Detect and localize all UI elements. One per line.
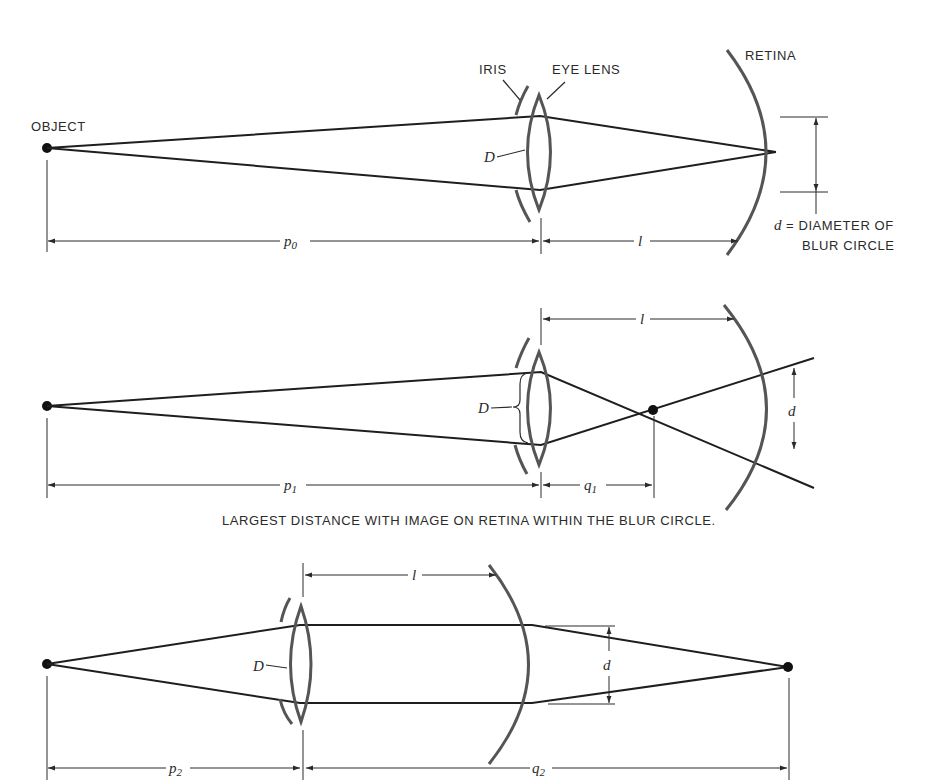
retina bbox=[724, 305, 767, 510]
extension-lines bbox=[47, 676, 789, 780]
extension-lines bbox=[47, 416, 654, 498]
panel-near-limit: D d l p2 q2 bbox=[42, 563, 793, 780]
p2-label: p2 bbox=[168, 760, 183, 778]
retina bbox=[727, 50, 766, 255]
q2-label: q2 bbox=[532, 760, 546, 778]
blur-definition-2: BLUR CIRCLE bbox=[802, 238, 895, 253]
iris-lower bbox=[515, 445, 527, 474]
aperture-label: D bbox=[483, 149, 495, 165]
panel-focused: OBJECT IRIS EYE LENS RETINA D d = DIAMET… bbox=[31, 48, 895, 255]
iris-upper bbox=[281, 598, 290, 622]
aperture-brace bbox=[513, 373, 528, 443]
blur-symbol: d bbox=[603, 657, 611, 673]
image-point bbox=[783, 662, 793, 672]
upper-ray bbox=[47, 625, 788, 667]
upper-ray bbox=[47, 372, 814, 488]
image-point bbox=[648, 405, 658, 415]
panel-caption: LARGEST DISTANCE WITH IMAGE ON RETINA WI… bbox=[222, 513, 716, 528]
object-label: OBJECT bbox=[31, 119, 86, 134]
blur-extents bbox=[780, 117, 828, 192]
blur-symbol: d bbox=[774, 217, 782, 233]
l-label: l bbox=[638, 233, 642, 249]
aperture-leader bbox=[497, 150, 525, 157]
iris-lower bbox=[516, 190, 530, 222]
iris-label: IRIS bbox=[479, 62, 507, 77]
q1-label: q1 bbox=[584, 477, 597, 495]
eye-lens bbox=[291, 606, 312, 722]
lower-ray bbox=[47, 148, 776, 190]
p1-label: p1 bbox=[283, 477, 297, 495]
upper-ray bbox=[47, 116, 776, 152]
aperture-label: D bbox=[252, 658, 264, 674]
aperture-label: D bbox=[477, 400, 489, 416]
p0-label: p0 bbox=[283, 233, 298, 251]
eye-lens bbox=[528, 352, 551, 465]
eye-lens-label: EYE LENS bbox=[552, 62, 620, 77]
iris-lower bbox=[280, 699, 292, 724]
iris-upper bbox=[516, 86, 528, 115]
retina-label: RETINA bbox=[745, 48, 796, 63]
lens-leader bbox=[547, 82, 565, 99]
lower-ray bbox=[47, 358, 814, 445]
lower-ray bbox=[47, 664, 788, 703]
l-label: l bbox=[412, 567, 416, 583]
retina bbox=[489, 565, 529, 764]
eye-lens bbox=[528, 95, 551, 210]
iris-upper bbox=[516, 338, 529, 368]
blur-definition-1: = DIAMETER OF bbox=[786, 218, 894, 233]
depth-of-field-diagram: OBJECT IRIS EYE LENS RETINA D d = DIAMET… bbox=[0, 0, 947, 783]
l-label: l bbox=[640, 311, 644, 327]
panel-far-limit: D d l p1 q1 LARGEST DISTANCE WITH IMAGE … bbox=[42, 305, 814, 528]
blur-symbol: d bbox=[788, 403, 796, 419]
iris-leader bbox=[503, 80, 520, 100]
